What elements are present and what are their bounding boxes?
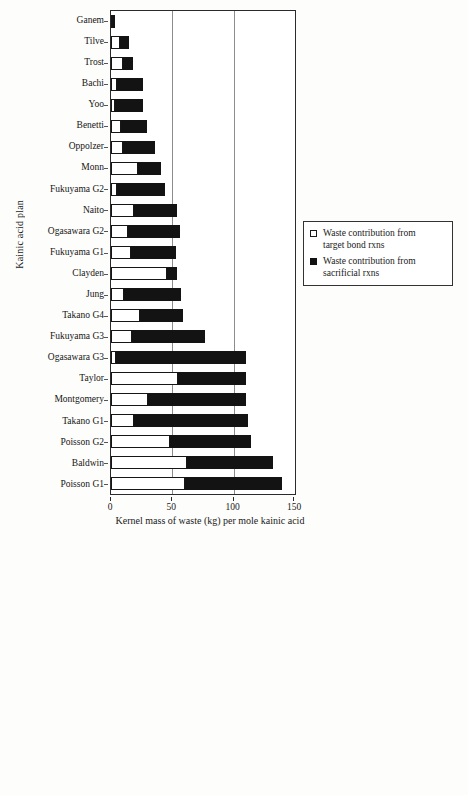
y-tick-mark [104, 253, 108, 254]
y-tick-mark [104, 63, 108, 64]
bar-segment-sacrificial [124, 288, 180, 300]
bar-segment-target-bond [111, 57, 123, 69]
stacked-bar [111, 372, 246, 384]
chart-top: Kainic acid plan GanemTilveTrostBachiYoo… [0, 0, 468, 530]
legend-label: Waste contribution from sacrificial rxns [323, 256, 416, 279]
x-tick-mark [110, 497, 111, 501]
category-label-top: Clayden [18, 263, 108, 284]
category-label-top: Ogasawara G3 [18, 348, 108, 369]
stacked-bar [111, 330, 205, 342]
category-label-top: Naito [18, 200, 108, 221]
bar-segment-sacrificial [116, 351, 246, 363]
bar-segment-sacrificial [185, 477, 282, 489]
stacked-bar [111, 393, 246, 405]
category-label-top: Fukuyama G3 [18, 326, 108, 347]
x-axis-label-top: Kernel mass of waste (kg) per mole kaini… [80, 515, 340, 526]
y-tick-mark [104, 42, 108, 43]
bar-row [111, 326, 295, 347]
bar-row [111, 347, 295, 368]
bar-segment-target-bond [111, 309, 140, 321]
legend-item: Waste contribution from target bond rxns [310, 228, 444, 251]
stacked-bar [111, 204, 177, 216]
category-label-top: Poisson G1 [18, 474, 108, 495]
stacked-bar [111, 36, 129, 48]
bar-row [111, 284, 295, 305]
stacked-bar [111, 183, 165, 195]
bar-segment-sacrificial [123, 57, 133, 69]
bar-row [111, 473, 295, 494]
stacked-bar [111, 435, 251, 447]
bar-segment-target-bond [111, 477, 185, 489]
bar-row [111, 137, 295, 158]
category-label-top: Taylor [18, 369, 108, 390]
legend-swatch-black-icon [310, 258, 317, 265]
legend-top: Waste contribution from target bond rxns… [303, 221, 453, 286]
category-label-top: Baldwin [18, 453, 108, 474]
y-tick-mark [104, 105, 108, 106]
bar-row [111, 263, 295, 284]
bar-segment-sacrificial [117, 183, 165, 195]
bar-row [111, 410, 295, 431]
legend-label: Waste contribution from target bond rxns [323, 228, 416, 251]
bar-segment-target-bond [111, 36, 120, 48]
category-label-top: Yoo [18, 94, 108, 115]
category-label-top: Tilve [18, 31, 108, 52]
bar-segment-target-bond [111, 393, 148, 405]
stacked-bar [111, 351, 246, 363]
category-label-top: Fukuyama G1 [18, 242, 108, 263]
category-label-top: Ganem [18, 10, 108, 31]
bar-segment-target-bond [111, 204, 134, 216]
y-tick-mark [104, 21, 108, 22]
bar-segment-sacrificial [134, 204, 177, 216]
y-tick-mark [104, 358, 108, 359]
bar-segment-sacrificial [123, 141, 155, 153]
stacked-bar [111, 120, 147, 132]
bar-segment-target-bond [111, 141, 123, 153]
bar-segment-target-bond [111, 267, 167, 279]
bar-segment-target-bond [111, 372, 178, 384]
bar-segment-sacrificial [140, 309, 183, 321]
bar-segment-sacrificial [113, 15, 115, 27]
x-tick-mark [293, 497, 294, 501]
y-tick-mark [104, 400, 108, 401]
category-label-top: Fukuyama G2 [18, 179, 108, 200]
bar-row [111, 32, 295, 53]
bar-segment-sacrificial [115, 99, 143, 111]
stacked-bar [111, 99, 143, 111]
y-tick-mark [104, 295, 108, 296]
category-label-top: Monn [18, 158, 108, 179]
stacked-bar [111, 309, 183, 321]
bar-segment-target-bond [111, 435, 170, 447]
stacked-bar [111, 78, 143, 90]
stacked-bar [111, 15, 115, 27]
bar-rows [111, 11, 295, 494]
bar-row [111, 116, 295, 137]
x-tick-label: 100 [226, 502, 240, 512]
bar-segment-target-bond [111, 330, 132, 342]
stacked-bar [111, 288, 181, 300]
x-tick-label: 0 [108, 502, 113, 512]
x-tick-mark [171, 497, 172, 501]
stacked-bar [111, 456, 273, 468]
legend-swatch-white-icon [310, 230, 317, 237]
bar-row [111, 179, 295, 200]
bar-segment-sacrificial [128, 225, 180, 237]
category-label-top: Bachi [18, 73, 108, 94]
x-tick-mark [233, 497, 234, 501]
category-label-top: Oppolzer [18, 137, 108, 158]
bar-row [111, 221, 295, 242]
bar-segment-sacrificial [187, 456, 273, 468]
category-label-top: Trost [18, 52, 108, 73]
stacked-bar [111, 162, 161, 174]
y-tick-mark [104, 337, 108, 338]
bar-segment-target-bond [111, 414, 134, 426]
y-tick-mark [104, 421, 108, 422]
bar-row [111, 242, 295, 263]
y-tick-mark [104, 274, 108, 275]
category-label-top: Benetti [18, 115, 108, 136]
bar-row [111, 431, 295, 452]
bar-segment-target-bond [111, 225, 128, 237]
y-axis-categories-top: GanemTilveTrostBachiYooBenettiOppolzerMo… [18, 10, 108, 495]
stacked-bar [111, 141, 155, 153]
x-tick-label: 150 [287, 502, 301, 512]
